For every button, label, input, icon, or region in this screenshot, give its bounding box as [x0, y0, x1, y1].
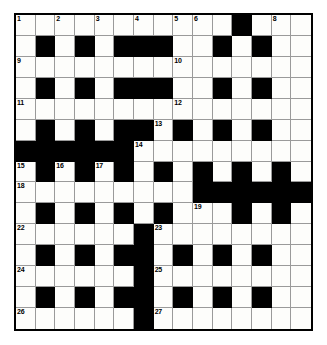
- crossword-open-cell[interactable]: [173, 203, 193, 224]
- crossword-open-cell[interactable]: 10: [173, 57, 193, 78]
- crossword-open-cell[interactable]: [213, 15, 233, 36]
- crossword-open-cell[interactable]: [173, 224, 193, 245]
- crossword-open-cell[interactable]: [272, 78, 292, 99]
- crossword-open-cell[interactable]: [173, 182, 193, 203]
- crossword-open-cell[interactable]: [272, 245, 292, 266]
- crossword-open-cell[interactable]: [95, 36, 115, 57]
- crossword-open-cell[interactable]: [75, 182, 95, 203]
- crossword-open-cell[interactable]: [232, 78, 252, 99]
- crossword-open-cell[interactable]: [232, 224, 252, 245]
- crossword-open-cell[interactable]: [232, 141, 252, 162]
- crossword-open-cell[interactable]: [272, 57, 292, 78]
- crossword-open-cell[interactable]: [55, 224, 75, 245]
- crossword-open-cell[interactable]: [252, 203, 272, 224]
- crossword-open-cell[interactable]: 11: [16, 99, 36, 120]
- crossword-open-cell[interactable]: [114, 224, 134, 245]
- crossword-open-cell[interactable]: [213, 266, 233, 287]
- crossword-open-cell[interactable]: [55, 36, 75, 57]
- crossword-open-cell[interactable]: [134, 162, 154, 183]
- crossword-open-cell[interactable]: [232, 99, 252, 120]
- crossword-open-cell[interactable]: [291, 15, 311, 36]
- crossword-open-cell[interactable]: [55, 203, 75, 224]
- crossword-open-cell[interactable]: [134, 57, 154, 78]
- crossword-open-cell[interactable]: [36, 182, 56, 203]
- crossword-open-cell[interactable]: [213, 57, 233, 78]
- crossword-open-cell[interactable]: [75, 57, 95, 78]
- crossword-open-cell[interactable]: [36, 57, 56, 78]
- crossword-open-cell[interactable]: [213, 141, 233, 162]
- crossword-open-cell[interactable]: [114, 308, 134, 329]
- crossword-open-cell[interactable]: [114, 182, 134, 203]
- crossword-open-cell[interactable]: [36, 15, 56, 36]
- crossword-open-cell[interactable]: [75, 266, 95, 287]
- crossword-open-cell[interactable]: [16, 120, 36, 141]
- crossword-open-cell[interactable]: [173, 266, 193, 287]
- crossword-open-cell[interactable]: [95, 99, 115, 120]
- crossword-open-cell[interactable]: [213, 224, 233, 245]
- crossword-open-cell[interactable]: 18: [16, 182, 36, 203]
- crossword-open-cell[interactable]: [134, 99, 154, 120]
- crossword-open-cell[interactable]: [95, 308, 115, 329]
- crossword-open-cell[interactable]: [193, 141, 213, 162]
- crossword-open-cell[interactable]: [95, 287, 115, 308]
- crossword-open-cell[interactable]: [16, 245, 36, 266]
- crossword-open-cell[interactable]: 17: [95, 162, 115, 183]
- crossword-open-cell[interactable]: [173, 162, 193, 183]
- crossword-open-cell[interactable]: 19: [193, 203, 213, 224]
- crossword-open-cell[interactable]: [95, 57, 115, 78]
- crossword-open-cell[interactable]: [36, 99, 56, 120]
- crossword-open-cell[interactable]: [232, 266, 252, 287]
- crossword-open-cell[interactable]: [252, 162, 272, 183]
- crossword-open-cell[interactable]: [154, 99, 174, 120]
- crossword-open-cell[interactable]: [193, 287, 213, 308]
- crossword-open-cell[interactable]: 1: [16, 15, 36, 36]
- crossword-open-cell[interactable]: [154, 182, 174, 203]
- crossword-open-cell[interactable]: [134, 203, 154, 224]
- crossword-open-cell[interactable]: [55, 245, 75, 266]
- crossword-open-cell[interactable]: 8: [272, 15, 292, 36]
- crossword-open-cell[interactable]: [291, 224, 311, 245]
- crossword-open-cell[interactable]: [291, 120, 311, 141]
- crossword-open-cell[interactable]: [55, 78, 75, 99]
- crossword-open-cell[interactable]: 14: [134, 141, 154, 162]
- crossword-open-cell[interactable]: [291, 36, 311, 57]
- crossword-open-cell[interactable]: [154, 287, 174, 308]
- crossword-open-cell[interactable]: [173, 141, 193, 162]
- crossword-open-cell[interactable]: [55, 266, 75, 287]
- crossword-open-cell[interactable]: [75, 99, 95, 120]
- crossword-open-cell[interactable]: 5: [173, 15, 193, 36]
- crossword-open-cell[interactable]: [55, 99, 75, 120]
- crossword-open-cell[interactable]: 6: [193, 15, 213, 36]
- crossword-open-cell[interactable]: [173, 308, 193, 329]
- crossword-open-cell[interactable]: [95, 78, 115, 99]
- crossword-open-cell[interactable]: [154, 15, 174, 36]
- crossword-open-cell[interactable]: [272, 308, 292, 329]
- crossword-open-cell[interactable]: [291, 162, 311, 183]
- crossword-open-cell[interactable]: [252, 308, 272, 329]
- crossword-open-cell[interactable]: [95, 224, 115, 245]
- crossword-open-cell[interactable]: [291, 57, 311, 78]
- crossword-open-cell[interactable]: [55, 120, 75, 141]
- crossword-open-cell[interactable]: [272, 287, 292, 308]
- crossword-open-cell[interactable]: [252, 99, 272, 120]
- crossword-open-cell[interactable]: 22: [16, 224, 36, 245]
- crossword-open-cell[interactable]: 12: [173, 99, 193, 120]
- crossword-open-cell[interactable]: [154, 141, 174, 162]
- crossword-open-cell[interactable]: [134, 182, 154, 203]
- crossword-open-cell[interactable]: [232, 287, 252, 308]
- crossword-open-cell[interactable]: [291, 203, 311, 224]
- crossword-open-cell[interactable]: [95, 203, 115, 224]
- crossword-open-cell[interactable]: [36, 308, 56, 329]
- crossword-open-cell[interactable]: [114, 266, 134, 287]
- crossword-open-cell[interactable]: [193, 224, 213, 245]
- crossword-open-cell[interactable]: [114, 99, 134, 120]
- crossword-open-cell[interactable]: 2: [55, 15, 75, 36]
- crossword-open-cell[interactable]: [55, 287, 75, 308]
- crossword-open-cell[interactable]: [272, 99, 292, 120]
- crossword-open-cell[interactable]: [252, 266, 272, 287]
- crossword-open-cell[interactable]: [114, 15, 134, 36]
- crossword-open-cell[interactable]: [193, 36, 213, 57]
- crossword-open-cell[interactable]: [173, 78, 193, 99]
- crossword-open-cell[interactable]: [75, 308, 95, 329]
- crossword-open-cell[interactable]: [272, 266, 292, 287]
